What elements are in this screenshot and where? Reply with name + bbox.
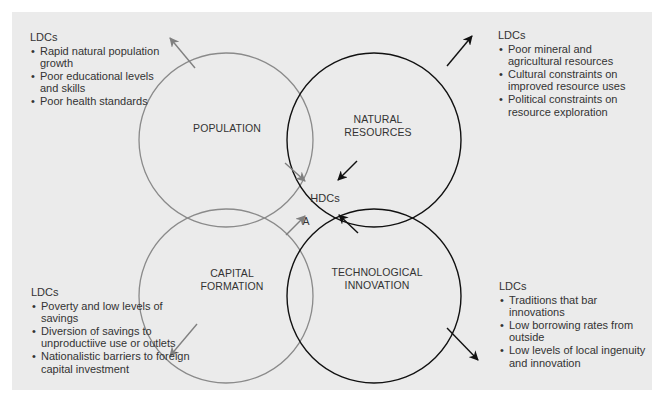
list-item: Cultural constraints on improved resourc…: [498, 68, 648, 93]
ldcs-capital-formation-block: LDCs Poverty and low levels of savings D…: [31, 286, 201, 375]
block-heading: LDCs: [498, 29, 648, 42]
list-item: Poor educational levels and skills: [30, 70, 170, 95]
capital-formation-label-line-2: FORMATION: [191, 280, 273, 293]
arrow-population-outward: [170, 38, 195, 68]
list-item: Low borrowing rates from outside: [499, 319, 654, 344]
population-label-line: POPULATION: [186, 122, 268, 135]
list-item: Poor health standards: [30, 95, 170, 108]
list-item: Traditions that bar innovations: [499, 294, 654, 319]
capital-formation-label-line-1: CAPITAL: [191, 267, 273, 280]
natural-resources-label-line-1: NATURAL: [337, 113, 419, 126]
list-item: Political constraints on resource explor…: [498, 93, 648, 118]
natural-resources-label: NATURAL RESOURCES: [337, 113, 419, 138]
population-label: POPULATION: [186, 122, 268, 135]
list-item: Diversion of savings to unproductiive us…: [31, 325, 201, 350]
list-item: Poverty and low levels of savings: [31, 300, 201, 325]
technological-innovation-label-line-1: TECHNOLOGICAL: [327, 266, 427, 279]
capital-formation-label: CAPITAL FORMATION: [191, 267, 273, 292]
arrow-technological-inward: [339, 215, 358, 233]
marker-a-label: A: [300, 215, 312, 228]
list-item: Low levels of local ingenuity and innova…: [499, 344, 654, 369]
block-heading: LDCs: [499, 280, 654, 293]
technological-innovation-label-line-2: INNOVATION: [327, 279, 427, 292]
natural-resources-label-line-2: RESOURCES: [337, 126, 419, 139]
arrow-natural-resources-inward: [338, 161, 357, 180]
hdcs-center-label: HDCs: [305, 192, 345, 205]
block-heading: LDCs: [30, 31, 170, 44]
arrow-technological-outward: [447, 328, 478, 360]
technological-innovation-label: TECHNOLOGICAL INNOVATION: [327, 266, 427, 291]
block-heading: LDCs: [31, 286, 201, 299]
arrow-population-inward: [285, 163, 305, 181]
ldcs-technological-block: LDCs Traditions that bar innovations Low…: [499, 280, 654, 369]
ldcs-natural-resources-block: LDCs Poor mineral and agricultural resou…: [498, 29, 648, 118]
list-item: Poor mineral and agricultural resources: [498, 43, 648, 68]
ldcs-population-block: LDCs Rapid natural population growth Poo…: [30, 31, 170, 108]
arrow-natural-resources-outward: [447, 36, 472, 66]
list-item: Rapid natural population growth: [30, 45, 170, 70]
list-item: Nationalistic barriers to foreign capita…: [31, 350, 201, 375]
